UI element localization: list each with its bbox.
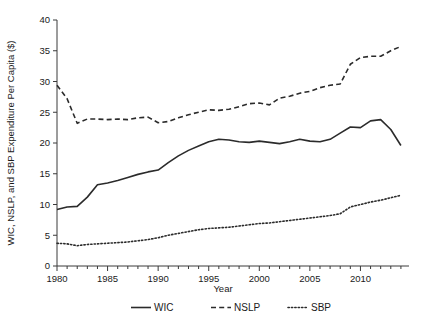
x-tick-label: 2005 bbox=[299, 273, 320, 284]
y-axis: 0510152025303540 bbox=[39, 14, 57, 271]
legend-label-wic: WIC bbox=[154, 302, 173, 313]
y-tick-label: 15 bbox=[39, 168, 50, 179]
x-tick-label: 2000 bbox=[249, 273, 270, 284]
series-line-sbp bbox=[57, 195, 401, 245]
y-axis-title: WIC, NSLP, and SBP Expenditure Per Capit… bbox=[5, 40, 16, 245]
x-axis: 1980198519901995200020052010 bbox=[46, 266, 409, 284]
x-tick-label: 1985 bbox=[97, 273, 118, 284]
y-tick-label: 40 bbox=[39, 14, 50, 25]
y-tick-label: 20 bbox=[39, 137, 50, 148]
series-line-nslp bbox=[57, 46, 401, 123]
x-axis-title: Year bbox=[213, 283, 232, 294]
x-tick-label: 2010 bbox=[350, 273, 371, 284]
series-lines bbox=[57, 46, 401, 245]
chart-canvas: 0510152025303540 19801985199019952000200… bbox=[0, 0, 423, 330]
y-tick-label: 25 bbox=[39, 107, 50, 118]
x-tick-label: 1980 bbox=[46, 273, 67, 284]
y-tick-label: 10 bbox=[39, 199, 50, 210]
x-tick-label: 1990 bbox=[148, 273, 169, 284]
chart-figure: 0510152025303540 19801985199019952000200… bbox=[0, 0, 423, 330]
y-tick-label: 0 bbox=[45, 260, 50, 271]
legend-label-nslp: NSLP bbox=[234, 302, 260, 313]
legend-label-sbp: SBP bbox=[311, 302, 331, 313]
y-tick-label: 30 bbox=[39, 76, 50, 87]
chart-legend: WICNSLPSBP bbox=[131, 302, 331, 313]
y-tick-label: 35 bbox=[39, 45, 50, 56]
series-line-wic bbox=[57, 120, 401, 210]
y-tick-label: 5 bbox=[45, 230, 50, 241]
